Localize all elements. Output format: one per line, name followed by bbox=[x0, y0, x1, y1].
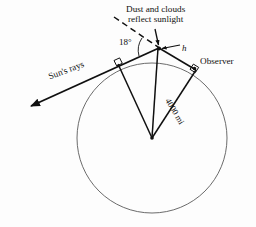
dust-to-observer-line bbox=[159, 48, 196, 70]
earth-center-point bbox=[150, 136, 154, 140]
angle-label-18-degrees: 18° bbox=[119, 37, 132, 47]
height-leader-arrow bbox=[162, 45, 180, 49]
angle-arc-18 bbox=[138, 38, 142, 56]
observer-label: Observer bbox=[200, 56, 234, 66]
dust-clouds-caption-line1: Dust and clouds bbox=[126, 4, 185, 14]
radius-to-tangent-line bbox=[118, 64, 152, 138]
figure-canvas: Dust and clouds reflect sunlight 18° h O… bbox=[0, 0, 256, 227]
dust-clouds-caption: Dust and clouds reflect sunlight bbox=[126, 4, 185, 25]
earth-sunlight-geometry-diagram bbox=[0, 0, 256, 227]
height-label-h: h bbox=[182, 43, 187, 53]
dust-clouds-caption-line2: reflect sunlight bbox=[126, 14, 185, 24]
dust-point bbox=[157, 47, 161, 51]
height-line bbox=[152, 48, 158, 138]
title-leader-arrow bbox=[155, 29, 159, 45]
observer-point bbox=[193, 67, 196, 70]
